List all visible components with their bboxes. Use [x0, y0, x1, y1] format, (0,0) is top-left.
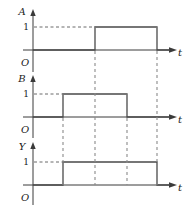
panel-y-waveform — [33, 162, 170, 185]
timing-diagram-svg: A 1 O t B 1 O t Y 1 O — [0, 0, 189, 220]
panel-a-waveform — [33, 27, 170, 50]
panel-a-time-label: t — [178, 47, 183, 58]
panel-y-time-label: t — [178, 182, 183, 193]
timing-diagram-figure: A 1 O t B 1 O t Y 1 O — [0, 0, 189, 220]
panel-y: Y 1 O t — [19, 141, 183, 205]
panel-b-level-label: 1 — [23, 89, 29, 99]
panel-a-value-axis-arrow-icon — [30, 9, 35, 16]
panel-y-value-axis-arrow-icon — [30, 142, 35, 149]
panel-b: B 1 O t — [17, 73, 183, 138]
panel-b-value-axis-arrow-icon — [30, 75, 35, 82]
panel-a-origin-label: O — [21, 57, 29, 68]
panel-y-signal-label: Y — [19, 141, 27, 152]
panel-a-time-axis-arrow-icon — [169, 47, 177, 52]
panel-b-time-axis-arrow-icon — [169, 114, 177, 119]
time-gridlines — [63, 27, 157, 185]
panel-a-signal-label: A — [17, 6, 25, 17]
panel-b-signal-label: B — [17, 73, 25, 84]
panel-a-level-label: 1 — [23, 22, 29, 32]
panel-y-time-axis-arrow-icon — [169, 182, 177, 187]
panel-y-origin-label: O — [21, 192, 29, 203]
panel-y-level-label: 1 — [23, 157, 29, 167]
panel-a: A 1 O t — [17, 6, 183, 72]
panel-b-origin-label: O — [21, 124, 29, 135]
panel-b-waveform — [33, 94, 170, 117]
panel-b-time-label: t — [178, 114, 183, 125]
